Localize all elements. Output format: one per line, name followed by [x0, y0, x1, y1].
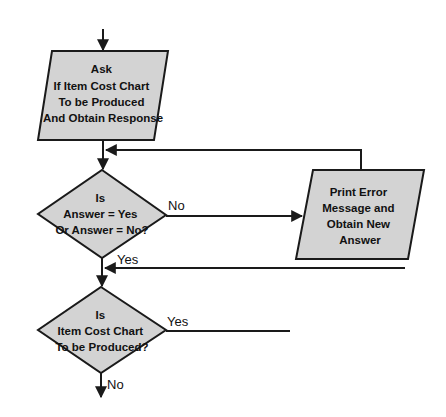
- error-line-1: Print Error: [330, 186, 388, 198]
- ask-line-4: And Obtain Response: [43, 112, 163, 124]
- error-line-3: Obtain New: [327, 218, 390, 230]
- validate-answer-decision: Is Answer = Yes Or Answer = No?: [38, 170, 166, 258]
- ask-input-node: Ask If Item Cost Chart To be Produced An…: [38, 51, 168, 140]
- valid-no-label: No: [168, 198, 185, 213]
- chart-no-label: No: [107, 377, 124, 392]
- decision-valid-line-3: Or Answer = No?: [55, 224, 148, 236]
- decision-chart-line-1: Is: [96, 309, 106, 321]
- ask-line-3: To be Produced: [58, 96, 144, 108]
- produce-chart-decision: Is Item Cost Chart To be Produced?: [38, 287, 166, 373]
- error-line-2: Message and: [322, 202, 394, 214]
- ask-line-1: Ask: [91, 63, 113, 75]
- ask-line-2: If Item Cost Chart: [53, 80, 149, 92]
- valid-yes-label: Yes: [117, 252, 139, 267]
- error-loop-connector: [106, 150, 361, 170]
- flowchart-diagram: Ask If Item Cost Chart To be Produced An…: [0, 0, 446, 417]
- decision-valid-line-1: Is: [96, 192, 106, 204]
- decision-chart-line-3: To be Produced?: [55, 341, 148, 353]
- chart-yes-label: Yes: [167, 314, 189, 329]
- decision-chart-line-2: Item Cost Chart: [58, 325, 144, 337]
- error-line-4: Answer: [339, 234, 381, 246]
- print-error-node: Print Error Message and Obtain New Answe…: [296, 170, 424, 259]
- decision-valid-line-2: Answer = Yes: [63, 208, 137, 220]
